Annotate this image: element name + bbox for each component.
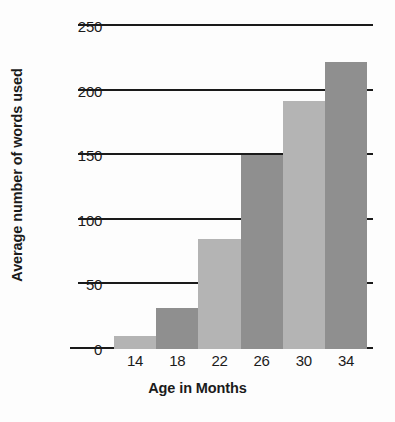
y-axis-title-text: Average number of words used [9, 68, 25, 281]
bar [114, 336, 156, 349]
x-axis-tick-label: 34 [325, 352, 367, 369]
y-axis-tick-label: 250 [30, 18, 102, 35]
bar [156, 308, 198, 349]
bar-series [114, 26, 367, 349]
y-axis-tick-label: 0 [30, 341, 102, 358]
bar [325, 62, 367, 349]
x-axis-tick-label: 30 [283, 352, 325, 369]
y-axis-title: Average number of words used [0, 0, 34, 350]
bar [241, 155, 283, 349]
plot-area [114, 26, 367, 349]
x-axis-tick-label: 14 [114, 352, 156, 369]
bar [198, 239, 240, 349]
bar [283, 101, 325, 349]
x-axis-tick-label: 18 [156, 352, 198, 369]
x-axis-tick-label: 22 [198, 352, 240, 369]
x-axis-tick-labels: 141822263034 [114, 352, 367, 369]
x-axis-title: Age in Months [0, 380, 395, 396]
x-axis-tick-label: 26 [241, 352, 283, 369]
bar-chart: Average number of words used 05010015020… [0, 0, 395, 422]
